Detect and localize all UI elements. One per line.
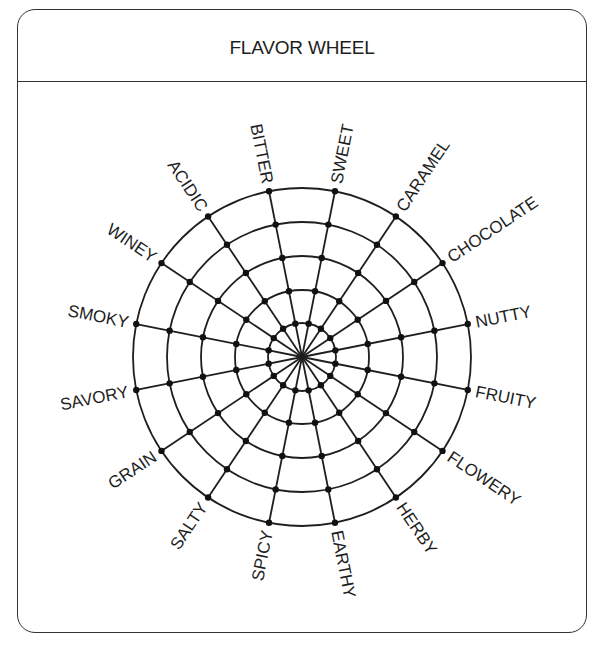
intersection-dot — [243, 317, 249, 323]
label-caramel: CARAMEL — [392, 136, 453, 215]
intersection-dot — [365, 341, 371, 347]
intersection-dot — [355, 391, 361, 397]
intersection-dot — [398, 374, 404, 380]
flavor-wheel-diagram: SWEETCARAMELCHOCOLATENUTTYFRUITYFLOWERYH… — [0, 0, 614, 663]
intersection-dot — [411, 429, 417, 435]
intersection-dot — [158, 448, 164, 454]
intersection-dot — [215, 298, 221, 304]
intersection-dot — [336, 298, 342, 304]
label-salty: SALTY — [167, 499, 212, 553]
intersection-dot — [262, 298, 268, 304]
intersection-dot — [312, 288, 318, 294]
intersection-dot — [166, 380, 172, 386]
intersection-dot — [327, 335, 333, 341]
intersection-dot — [292, 387, 298, 393]
wheel-spokes — [136, 191, 468, 523]
intersection-dot — [266, 520, 272, 526]
label-flowery: FLOWERY — [444, 447, 524, 509]
label-fruity: FRUITY — [474, 382, 538, 413]
intersection-dot — [439, 448, 445, 454]
intersection-dot — [286, 420, 292, 426]
intersection-dot — [383, 410, 389, 416]
label-smoky: SMOKY — [66, 301, 130, 332]
intersection-dot — [312, 420, 318, 426]
intersection-dot — [355, 317, 361, 323]
intersection-dot — [325, 486, 331, 492]
intersection-dot — [336, 410, 342, 416]
intersection-dot — [292, 320, 298, 326]
intersection-dot — [271, 335, 277, 341]
intersection-dot — [327, 373, 333, 379]
intersection-dot — [431, 380, 437, 386]
intersection-dot — [265, 360, 271, 366]
intersection-dot — [279, 255, 285, 261]
intersection-dot — [215, 410, 221, 416]
intersection-dot — [279, 453, 285, 459]
intersection-dot — [272, 221, 278, 227]
intersection-dot — [332, 360, 338, 366]
label-savory: SAVORY — [59, 382, 131, 414]
intersection-dot — [271, 373, 277, 379]
intersection-dot — [133, 321, 139, 327]
intersection-dot — [355, 270, 361, 276]
intersection-dot — [319, 255, 325, 261]
label-acidic: ACIDIC — [164, 157, 212, 215]
intersection-dot — [243, 270, 249, 276]
label-earthy: EARTHY — [327, 529, 359, 600]
intersection-dot — [318, 382, 324, 388]
intersection-dot — [325, 221, 331, 227]
intersection-dot — [224, 242, 230, 248]
intersection-dot — [332, 347, 338, 353]
label-winey: WINEY — [103, 220, 160, 267]
intersection-dot — [305, 320, 311, 326]
intersection-dot — [365, 367, 371, 373]
intersection-dot — [332, 188, 338, 194]
label-spicy: SPICY — [248, 529, 277, 583]
intersection-dot — [465, 387, 471, 393]
intersection-dot — [166, 327, 172, 333]
label-bitter: BITTER — [246, 122, 276, 185]
intersection-dot — [383, 298, 389, 304]
intersection-dot — [233, 367, 239, 373]
intersection-dot — [318, 326, 324, 332]
intersection-dot — [266, 188, 272, 194]
label-chocolate: CHOCOLATE — [444, 193, 541, 267]
intersection-dot — [158, 260, 164, 266]
intersection-dot — [374, 242, 380, 248]
intersection-dot — [243, 391, 249, 397]
intersection-dot — [233, 341, 239, 347]
label-nutty: NUTTY — [474, 302, 533, 332]
intersection-dot — [205, 494, 211, 500]
intersection-dot — [280, 382, 286, 388]
intersection-dot — [319, 453, 325, 459]
intersection-dot — [205, 213, 211, 219]
intersection-dot — [411, 279, 417, 285]
label-sweet: SWEET — [327, 122, 357, 185]
intersection-dot — [265, 347, 271, 353]
intersection-dot — [286, 288, 292, 294]
intersection-dot — [332, 520, 338, 526]
intersection-dot — [200, 334, 206, 340]
intersection-dot — [224, 466, 230, 472]
intersection-dot — [272, 486, 278, 492]
intersection-dot — [374, 466, 380, 472]
intersection-dot — [133, 387, 139, 393]
intersection-dot — [243, 438, 249, 444]
intersection-dot — [200, 374, 206, 380]
label-herby: HERBY — [392, 499, 440, 558]
intersection-dot — [187, 279, 193, 285]
intersection-dot — [465, 321, 471, 327]
intersection-dot — [187, 429, 193, 435]
intersection-dot — [398, 334, 404, 340]
intersection-dot — [393, 213, 399, 219]
intersection-dot — [262, 410, 268, 416]
intersection-dot — [280, 326, 286, 332]
intersection-dot — [355, 438, 361, 444]
intersection-dot — [439, 260, 445, 266]
intersection-dot — [393, 494, 399, 500]
label-grain: GRAIN — [105, 447, 160, 493]
intersection-dot — [431, 327, 437, 333]
intersection-dot — [305, 387, 311, 393]
